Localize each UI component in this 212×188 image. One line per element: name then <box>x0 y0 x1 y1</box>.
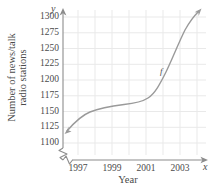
y-axis-title: Number of news/talk radio stations <box>6 10 28 145</box>
chart-figure: 1300 1275 1250 1225 1200 1175 1150 1125 … <box>0 0 212 188</box>
x-axis-title: Year <box>88 174 168 185</box>
y-tick-label: 1100 <box>27 137 59 147</box>
curve-f <box>65 9 202 135</box>
x-tick-label: 2001 <box>129 163 163 173</box>
x-tick-label: 2003 <box>163 163 197 173</box>
y-tick-label: 1250 <box>27 43 59 53</box>
y-tick-label: 1275 <box>27 27 59 37</box>
y-tick-label: 1150 <box>27 106 59 116</box>
x-tick-label: 1997 <box>61 163 95 173</box>
y-tick-label: 1125 <box>27 121 59 131</box>
y-tick-label: 1200 <box>27 74 59 84</box>
y-axis-title-line1: Number of news/talk <box>6 10 17 145</box>
y-tick-label: 1225 <box>27 58 59 68</box>
x-axis-letter: x <box>203 161 207 172</box>
x-tick-label: 1999 <box>95 163 129 173</box>
y-axis-letter: y <box>51 3 55 14</box>
y-tick-label: 1175 <box>27 90 59 100</box>
y-axis-title-line2: radio stations <box>17 10 28 145</box>
curve-label-f: f <box>160 66 163 76</box>
y-axis <box>59 8 67 160</box>
